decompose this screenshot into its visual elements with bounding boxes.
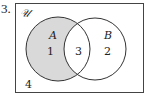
set-a-only-count: 1 xyxy=(47,45,54,58)
intersection-count: 3 xyxy=(75,45,82,58)
venn-diagram: 𝒰 A 1 3 B 2 4 xyxy=(0,0,145,96)
set-b-label: B xyxy=(103,29,112,42)
set-a-label: A xyxy=(48,29,57,42)
universe-label: 𝒰 xyxy=(20,7,33,20)
outside-count: 4 xyxy=(25,78,32,91)
set-b-circle xyxy=(64,18,126,80)
set-b-only-count: 2 xyxy=(104,45,111,58)
